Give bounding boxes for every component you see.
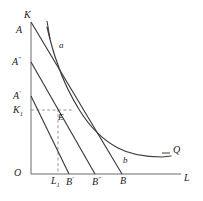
x-axis-label: L xyxy=(184,173,190,183)
guide-lines-group xyxy=(31,109,73,174)
point-label-b: b xyxy=(123,156,128,165)
x-label-B-prime-sup: ′ xyxy=(72,175,74,183)
isoquant-curve-group xyxy=(47,27,171,157)
point-label-a: a xyxy=(59,41,64,50)
isoquant-curve-label-Q: Q xyxy=(173,145,180,155)
intercept-label-K1: K1 xyxy=(13,105,23,118)
point-label-E: E xyxy=(58,113,64,122)
intercept-label-A-double-prime: A″ xyxy=(12,56,21,67)
intercept-label-A-prime: A′ xyxy=(13,90,21,101)
figure-canvas xyxy=(0,0,203,201)
x-label-B: B xyxy=(120,176,126,186)
isoquant-isocost-figure: K L O A A″ A′ K1 L1 B′ B″ B a b E Q xyxy=(0,0,203,201)
intercept-label-A: A xyxy=(16,25,22,35)
isocost-lines-group xyxy=(31,22,122,174)
isoquant-curve-Q xyxy=(47,27,171,157)
y-axis-label: K xyxy=(24,10,31,20)
x-label-L1-sub: 1 xyxy=(57,181,60,188)
intercept-label-A-prime-sup: ′ xyxy=(19,89,21,97)
intercept-label-A-double-prime-sup: ″ xyxy=(18,55,21,63)
x-label-B-prime: B′ xyxy=(66,176,74,187)
isocost-line-AB xyxy=(31,22,122,174)
intercept-label-K1-base: K xyxy=(13,104,20,115)
x-label-B-double-prime: B″ xyxy=(92,176,101,187)
x-label-B-double-prime-sup: ″ xyxy=(98,175,101,183)
intercept-label-K1-sub: 1 xyxy=(20,110,23,117)
origin-label: O xyxy=(14,168,21,178)
x-label-L1: L1 xyxy=(51,176,60,189)
axes-group xyxy=(31,22,181,174)
isocost-line-A1B1 xyxy=(31,96,69,174)
